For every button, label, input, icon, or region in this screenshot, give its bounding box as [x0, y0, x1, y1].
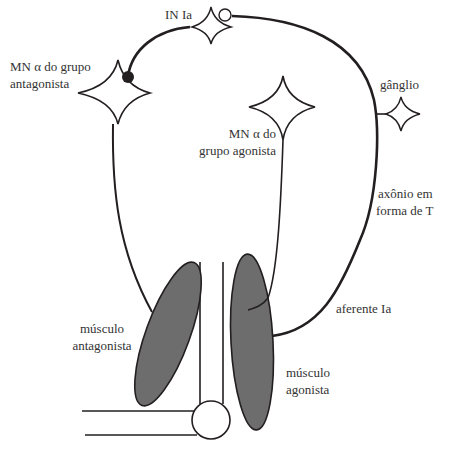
t-axon-label-line1: axônio em — [378, 185, 433, 202]
ganglion-label: gânglio — [380, 76, 419, 93]
antagonist-muscle-label-line2: antagonista — [62, 337, 142, 354]
joint-icon — [192, 401, 230, 439]
inhibitory-synapse-icon — [122, 71, 134, 83]
t-axon-label-line2: forma de T — [376, 202, 434, 219]
agonist-mn-label-line2: grupo agonista — [180, 142, 276, 159]
antagonist-mn-label-line2: antagonista — [10, 75, 69, 92]
agonist-mn-label-line1: MN α do — [180, 125, 276, 142]
reciprocal-inhibition-diagram: IN Ia MN α do grupo antagonista MN α do … — [0, 0, 450, 449]
agonist-muscle — [226, 253, 277, 431]
in-ia-label: IN Ia — [165, 6, 192, 23]
antagonist-mn-label-line1: MN α do grupo — [10, 58, 91, 75]
in-ia-axon — [128, 27, 190, 76]
ganglion-soma-icon — [386, 97, 420, 131]
antagonist-mn-axon — [113, 124, 152, 312]
afferent-ia-label: aferente Ia — [336, 300, 391, 317]
excitatory-synapse-icon — [219, 9, 231, 21]
antagonist-muscle-label-line1: músculo — [62, 320, 142, 337]
agonist-muscle-label-line2: agonista — [286, 381, 329, 398]
agonist-muscle-label-line1: músculo — [286, 364, 330, 381]
